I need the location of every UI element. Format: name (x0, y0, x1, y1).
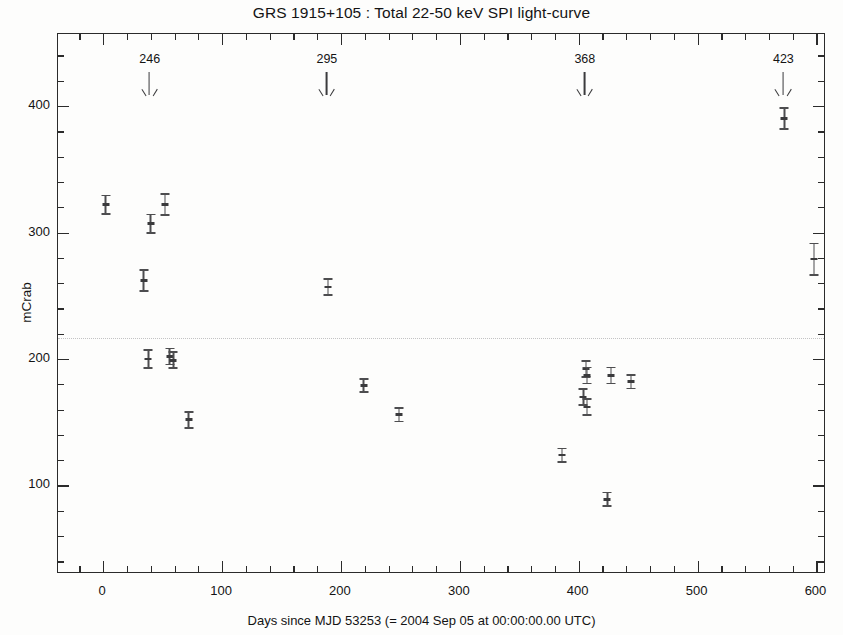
data-point-marker (781, 117, 788, 120)
data-point (184, 411, 193, 429)
y-minor-tick (58, 131, 64, 132)
y-major-tick (58, 233, 69, 234)
data-point (359, 378, 368, 393)
error-bar-cap-top (165, 348, 174, 350)
error-bar-cap-top (810, 243, 819, 245)
arrow-headR (153, 89, 158, 96)
y-minor-tick-right (818, 55, 824, 56)
annotation-295: 295 (316, 53, 337, 102)
x-minor-tick-top (151, 34, 152, 40)
error-bar-cap-top (583, 367, 592, 369)
y-minor-tick-right (818, 460, 824, 461)
y-minor-tick-right (818, 384, 824, 385)
annotation-label: 295 (316, 53, 337, 66)
error-bar-cap-bottom (169, 367, 178, 369)
data-point (169, 351, 178, 369)
y-major-tick (58, 359, 69, 360)
down-arrow-icon (320, 72, 334, 102)
error-bar-cap-bottom (144, 367, 153, 369)
data-point-marker (811, 258, 818, 261)
error-bar-cap-top (579, 388, 588, 390)
error-bar-cap-top (780, 107, 789, 109)
x-minor-tick-top (507, 34, 508, 40)
y-minor-tick-right (818, 536, 824, 537)
data-point (627, 374, 636, 389)
y-minor-tick-right (818, 435, 824, 436)
error-bar-cap-top (169, 351, 178, 353)
x-major-tick-top (460, 34, 461, 45)
y-minor-tick-right (818, 334, 824, 335)
x-tick-label: 200 (310, 583, 370, 598)
x-minor-tick-top (484, 34, 485, 40)
x-major-tick (460, 561, 461, 572)
y-minor-tick-right (818, 157, 824, 158)
data-point-marker (584, 374, 591, 377)
x-minor-tick (127, 566, 128, 572)
arrow-shaft (149, 72, 150, 95)
error-bar-cap-top (184, 411, 193, 413)
x-minor-tick-top (365, 34, 366, 40)
data-point-marker (604, 498, 611, 501)
x-major-tick-top (222, 34, 223, 45)
x-minor-tick-top (436, 34, 437, 40)
x-minor-tick-top (175, 34, 176, 40)
y-minor-tick (58, 561, 64, 562)
x-major-tick-top (816, 34, 817, 45)
error-bar-cap-bottom (139, 290, 148, 292)
x-minor-tick-top (602, 34, 603, 40)
error-bar-cap-top (160, 193, 169, 195)
y-minor-tick (58, 435, 64, 436)
x-minor-tick-top (531, 34, 532, 40)
y-minor-tick-right (818, 283, 824, 284)
y-minor-tick-right (818, 410, 824, 411)
down-arrow-icon (578, 72, 592, 102)
error-bar-cap-top (359, 378, 368, 380)
data-point-marker (161, 203, 168, 206)
y-minor-tick (58, 81, 64, 82)
y-major-tick-right (813, 485, 824, 486)
x-minor-tick-top (389, 34, 390, 40)
annotation-label: 368 (574, 53, 595, 66)
data-point-marker (628, 380, 635, 383)
arrow-headL (318, 89, 323, 96)
data-point-marker (102, 203, 109, 206)
error-bar-cap-top (139, 269, 148, 271)
x-minor-tick (412, 566, 413, 572)
x-minor-tick-top (745, 34, 746, 40)
data-point (139, 269, 148, 292)
error-bar-cap-bottom (627, 388, 636, 390)
x-tick-label: 300 (429, 583, 489, 598)
arrow-headL (141, 89, 146, 96)
x-minor-tick-top (793, 34, 794, 40)
x-tick-label: 600 (785, 583, 843, 598)
error-bar-cap-bottom (606, 383, 615, 385)
x-major-tick (222, 561, 223, 572)
x-minor-tick (436, 566, 437, 572)
y-minor-tick (58, 511, 64, 512)
y-major-tick-right (813, 106, 824, 107)
data-point (395, 407, 404, 422)
x-minor-tick-top (721, 34, 722, 40)
x-minor-tick (650, 566, 651, 572)
x-minor-tick-top (650, 34, 651, 40)
y-minor-tick (58, 283, 64, 284)
data-point-marker (145, 358, 152, 361)
error-bar-cap-top (583, 398, 592, 400)
arrow-headR (588, 89, 593, 96)
x-major-tick (698, 561, 699, 572)
x-tick-label: 0 (72, 583, 132, 598)
x-minor-tick-top (246, 34, 247, 40)
y-minor-tick (58, 55, 64, 56)
data-point-marker (607, 374, 614, 377)
x-minor-tick-top (555, 34, 556, 40)
annotation-246: 246 (139, 53, 160, 102)
plot-area (57, 33, 825, 573)
data-point (144, 349, 153, 369)
error-bar-cap-bottom (810, 274, 819, 276)
y-minor-tick (58, 460, 64, 461)
x-minor-tick-top (127, 34, 128, 40)
x-minor-tick (745, 566, 746, 572)
x-minor-tick (389, 566, 390, 572)
x-minor-tick (674, 566, 675, 572)
y-minor-tick (58, 207, 64, 208)
